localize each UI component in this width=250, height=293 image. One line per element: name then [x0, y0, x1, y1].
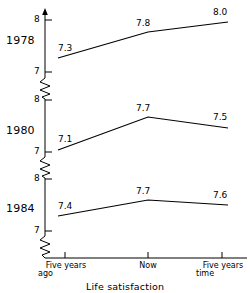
point-value-1984-now: 7.7 — [136, 187, 150, 196]
point-value-1980-five-years-time: 7.5 — [213, 113, 227, 122]
axis-break-zigzag-1 — [40, 78, 50, 99]
point-value-1980-five-years-ago: 7.1 — [58, 135, 72, 144]
ytick-label-1978-7: 7 — [34, 67, 40, 76]
ytick-label-1984-7: 7 — [34, 226, 40, 235]
x-axis-title: Life satisfaction — [86, 282, 164, 292]
panel-year-label-1984: 1984 — [6, 203, 35, 214]
axis-break-zigzag-2 — [40, 157, 50, 178]
point-value-1978-five-years-ago: 7.3 — [58, 44, 72, 53]
y-axis-arrow-icon — [42, 8, 48, 15]
series-line-1980 — [58, 117, 228, 150]
point-value-1980-now: 7.7 — [136, 104, 150, 113]
xtick-label-now: Now — [130, 262, 166, 270]
xtick-label-line1: Now — [139, 261, 156, 270]
ytick-label-1978-8: 8 — [34, 15, 40, 24]
point-value-1978-five-years-time: 8.0 — [213, 8, 227, 17]
ytick-label-1980-8: 8 — [34, 95, 40, 104]
panel-year-label-1980: 1980 — [6, 125, 35, 136]
point-value-1978-now: 7.8 — [136, 19, 150, 28]
xtick-label-five-years-ago: Five years ago — [38, 262, 94, 278]
xtick-label-five-years-time: Five years time — [196, 262, 250, 278]
xtick-label-line2: ago — [38, 270, 94, 278]
series-line-1984 — [58, 200, 228, 216]
ytick-label-1984-8: 8 — [34, 174, 40, 183]
panel-year-label-1978: 1978 — [6, 35, 35, 46]
point-value-1984-five-years-time: 7.6 — [213, 191, 227, 200]
axis-break-zigzag-3 — [40, 236, 50, 258]
ytick-label-1980-7: 7 — [34, 147, 40, 156]
point-value-1984-five-years-ago: 7.4 — [58, 202, 72, 211]
broken-axis-line-chart: 1978 1980 1984 8 7 8 7 8 7 7.3 7.8 8.0 7… — [0, 0, 250, 293]
xtick-label-line2: time — [196, 270, 250, 278]
